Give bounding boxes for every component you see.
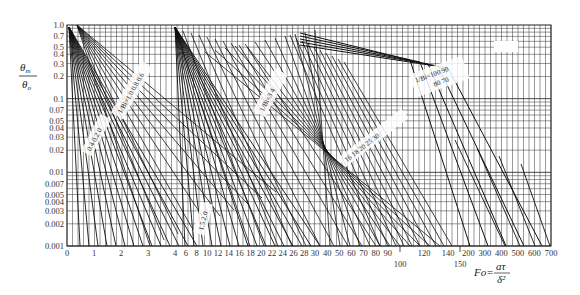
x-tick-label: 40 <box>323 248 332 258</box>
y-tick-label: 0.02 <box>49 145 64 155</box>
y-axis-label: θm θo <box>19 61 37 92</box>
y-tick-label: 0.1 <box>53 94 64 104</box>
x-tick-label: 120 <box>418 248 431 258</box>
y-tick-label: 0.002 <box>45 219 64 229</box>
y-tick-label: 0.001 <box>45 241 64 251</box>
y-axis-ticks: 1.00.70.50.40.30.20.10.070.050.040.030.0… <box>45 20 65 251</box>
x-tick-label: 28 <box>300 248 309 258</box>
svg-text:θm: θm <box>20 61 30 75</box>
x-tick-label: 24 <box>278 248 287 258</box>
x-tick-label: 90 <box>384 248 393 258</box>
x-tick-label: 1 <box>92 248 96 258</box>
y-tick-label: 1.0 <box>53 20 64 30</box>
x-tick-label: 100 <box>394 259 407 269</box>
x-tick-label: 60 <box>347 248 356 258</box>
x-tick-label: 2 <box>119 248 123 258</box>
x-tick-label: 70 <box>359 248 368 258</box>
x-tick-label: 10 <box>203 248 212 258</box>
svg-text:aτ: aτ <box>496 260 507 272</box>
x-tick-label: 16 <box>235 248 244 258</box>
x-tick-label: 30 <box>311 248 320 258</box>
x-tick-label: 0 <box>65 248 69 258</box>
x-tick-label: 50 <box>335 248 344 258</box>
data-curves <box>69 25 550 246</box>
x-tick-label: 140 <box>442 248 455 258</box>
x-tick-label: 18 <box>246 248 255 258</box>
x-tick-label: 8 <box>194 248 198 258</box>
x-tick-label: 400 <box>495 248 508 258</box>
x-tick-label: 12 <box>214 248 223 258</box>
y-tick-label: 0.003 <box>45 206 64 216</box>
x-axis-label: Fo= aτ δ² <box>473 260 510 285</box>
x-tick-label: 300 <box>478 248 491 258</box>
x-tick-label: 600 <box>528 248 541 258</box>
x-tick-label: 700 <box>545 248 558 258</box>
x-tick-label: 14 <box>225 248 234 258</box>
x-tick-label: 3 <box>146 248 150 258</box>
y-tick-label: 0.03 <box>49 132 64 142</box>
heisler-chart: 1.00.70.50.40.30.20.10.070.050.040.030.0… <box>0 0 580 295</box>
x-tick-label: 150 <box>454 259 467 269</box>
blank-patch <box>494 41 518 52</box>
y-tick-label: 0.07 <box>49 105 64 115</box>
y-tick-label: 0.01 <box>49 167 64 177</box>
x-tick-label: 4 <box>173 248 178 258</box>
y-tick-label: 0.7 <box>53 31 64 41</box>
y-tick-label: 0.3 <box>53 59 64 69</box>
y-tick-label: 0.2 <box>53 71 64 81</box>
svg-text:θo: θo <box>22 78 31 92</box>
svg-text:δ²: δ² <box>497 273 506 285</box>
x-tick-label: 20 <box>257 248 266 258</box>
svg-text:Fo=: Fo= <box>473 266 494 278</box>
x-tick-label: 80 <box>371 248 380 258</box>
x-tick-label: 200 <box>462 248 475 258</box>
x-tick-label: 22 <box>268 248 277 258</box>
y-tick-label: 0.007 <box>45 179 64 189</box>
x-tick-label: 6 <box>184 248 188 258</box>
x-tick-label: 26 <box>289 248 298 258</box>
x-tick-label: 500 <box>512 248 525 258</box>
